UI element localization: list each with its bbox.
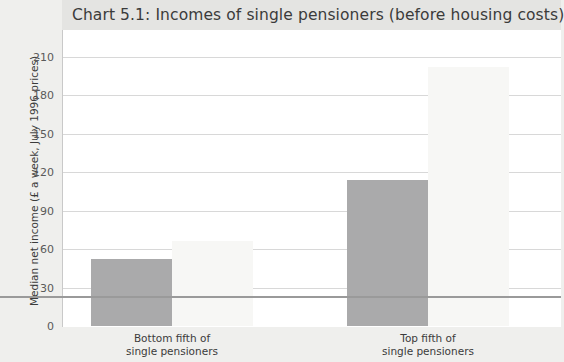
x-axis-category-label: Top fifth ofsingle pensioners bbox=[348, 332, 508, 358]
y-axis-tick-label: 210 bbox=[8, 51, 54, 64]
y-axis-tick-label: 0 bbox=[8, 320, 54, 333]
y-axis-tick-label: 90 bbox=[8, 204, 54, 217]
y-axis-tick-label: 60 bbox=[8, 243, 54, 256]
y-axis-tick-label: 120 bbox=[8, 166, 54, 179]
bar-series-2-0 bbox=[172, 241, 253, 326]
x-axis-line bbox=[0, 296, 561, 298]
x-axis-category-label-line: Bottom fifth of bbox=[92, 332, 252, 345]
x-axis-category-label: Bottom fifth ofsingle pensioners bbox=[92, 332, 252, 358]
plot-area bbox=[62, 30, 561, 327]
bar-series-2-1 bbox=[428, 67, 509, 326]
y-axis-tick-label: 30 bbox=[8, 281, 54, 294]
y-axis-tick-label: 150 bbox=[8, 127, 54, 140]
gridline bbox=[62, 57, 561, 58]
x-axis-category-label-line: Top fifth of bbox=[348, 332, 508, 345]
y-axis-line bbox=[62, 30, 63, 327]
x-axis-category-label-line: single pensioners bbox=[348, 345, 508, 358]
x-axis-category-label-line: single pensioners bbox=[92, 345, 252, 358]
y-axis-tick-label: 180 bbox=[8, 89, 54, 102]
chart-title: Chart 5.1: Incomes of single pensioners … bbox=[62, 0, 561, 30]
y-axis-tick-labels: 0306090120150180210 bbox=[8, 0, 54, 362]
bar-series-1-0 bbox=[91, 259, 172, 326]
bar-series-1-1 bbox=[347, 180, 428, 326]
